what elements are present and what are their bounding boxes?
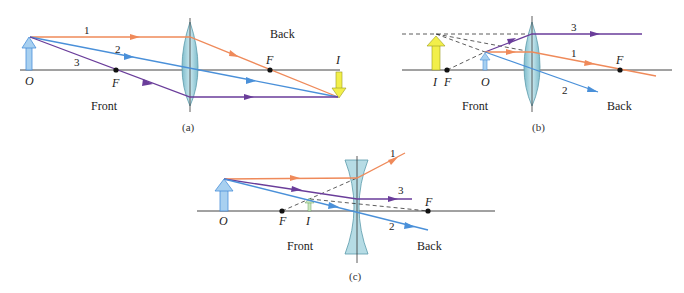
panel-a: 1 2 3 O F F I Front Back (a) [20,18,346,134]
ray-diagrams: 1 2 3 O F F I Front Back (a) [0,0,684,293]
ray-arrowhead [388,196,398,202]
ray-arrowhead [404,222,415,229]
caption-a: (a) [182,121,195,134]
image-arrow [427,36,445,70]
ray-3 [224,179,412,199]
focal-label: F [278,214,287,228]
ray-label-3: 3 [571,21,577,33]
focal-label: F [615,53,624,67]
focal-point [113,67,118,72]
focal-label: F [265,53,274,67]
object-label: O [481,75,490,89]
ray-arrowhead [584,60,595,66]
virtual-ray-extension [436,34,532,52]
ray-arrowhead [506,49,516,55]
virtual-ray-extension [436,34,485,52]
object-arrow [480,53,490,70]
ray-1 [224,153,405,179]
focal-label: F [424,195,433,209]
ray-2 [485,52,598,92]
object-label: O [25,74,34,88]
ray-arrowhead [587,86,598,92]
object-arrow [215,179,233,211]
object-arrow [22,37,36,70]
caption-c: (c) [349,270,362,283]
back-label: Back [270,27,295,41]
image-arrow [332,72,346,98]
ray-label-1: 1 [390,147,396,159]
ray-arrowhead [246,77,256,84]
focal-point [267,67,272,72]
focal-label: F [111,76,120,90]
focal-point [444,67,449,72]
ray-label-2: 2 [389,220,395,232]
ray-label-2: 2 [562,84,568,96]
image-label: I [305,214,311,228]
ray-label-1: 1 [571,47,577,59]
ray-arrowhead [244,94,254,100]
ray-label-1: 1 [84,24,90,36]
front-label: Front [91,99,118,113]
ray-label-2: 2 [115,43,121,55]
ray-arrowhead [290,175,300,181]
ray-label-3: 3 [74,56,80,68]
ray-arrowhead [229,50,239,57]
object-label: O [219,214,228,228]
virtual-ray-extension [447,52,485,70]
ray-label-3: 3 [398,184,404,196]
image-label: I [335,53,341,67]
ray-arrowhead [590,31,600,37]
focal-point [617,67,622,72]
image-label: I [432,75,438,89]
panel-c: 1 3 2 O F I F Front Back (c) [197,147,495,283]
ray-arrowhead [124,53,134,60]
ray-arrowhead [130,34,140,40]
back-label: Back [417,239,442,253]
back-label: Back [607,99,632,113]
focal-label: F [443,75,452,89]
front-label: Front [287,239,314,253]
front-label: Front [462,99,489,113]
panel-b: 3 1 2 I F O F Front Back (b) [402,16,672,134]
caption-b: (b) [532,121,545,134]
virtual-ray-extension [282,178,357,211]
focal-point [425,208,430,213]
focal-point [279,208,284,213]
ray-arrowhead [507,38,516,45]
